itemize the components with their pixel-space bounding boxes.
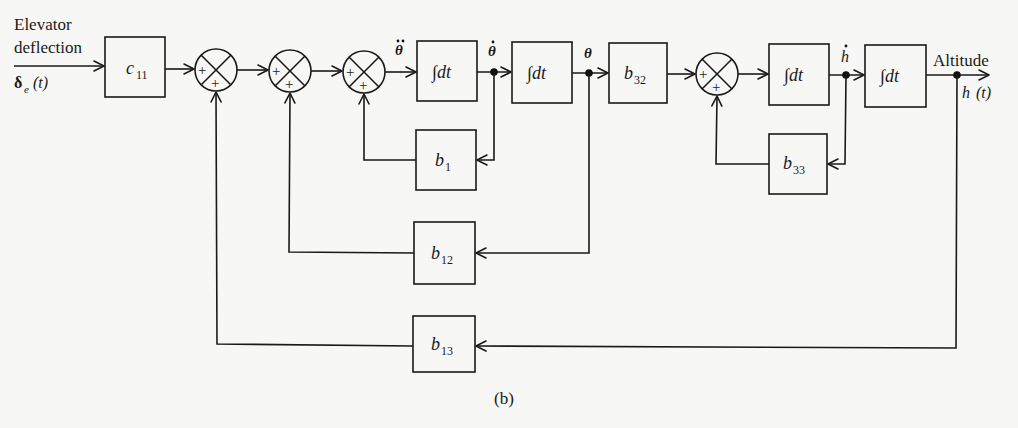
block-b32: b 32 [609,43,667,103]
svg-text:(t): (t) [976,84,991,102]
svg-text:12: 12 [441,253,453,267]
figure-caption: (b) [494,389,514,408]
input-label-line1: Elevator [14,15,72,34]
svg-text:13: 13 [441,344,453,358]
svg-text:1: 1 [445,160,451,174]
block-b13: b 13 [413,316,475,372]
svg-text:+: + [285,76,293,92]
block-integrator-2: ∫dt [512,42,572,103]
output-signal-label: h (t) [962,84,991,102]
block-b12: b 12 [414,222,475,284]
svg-text:δ: δ [14,74,22,91]
svg-text:b: b [783,153,792,173]
feedback-line-b33-to-sum4 [716,96,769,164]
svg-text:θ: θ [488,43,496,59]
svg-text:b: b [431,334,440,354]
feedback-line-h-dot-to-b33 [828,75,846,164]
svg-text:b: b [431,243,440,263]
svg-text:32: 32 [634,73,646,87]
input-label-line2: deflection [14,38,82,57]
svg-text:11: 11 [136,68,148,82]
summing-junction-3: + + [343,51,385,93]
svg-text:+: + [211,75,219,91]
input-signal-label: δ e (t) [14,74,48,95]
feedback-line-b1-to-sum3 [364,94,416,160]
block-diagram: Elevator deflection δ e (t) c 11 + + + +… [0,0,1018,428]
block-integrator-1: ∫dt [417,41,477,101]
svg-text:θ: θ [395,42,403,58]
signal-theta: θ [584,45,592,61]
feedback-line-theta-dot-to-b1 [477,72,494,160]
block-b33: b 33 [769,134,827,194]
summing-junction-4: + + [696,53,738,95]
summing-junction-1: + + [195,49,237,91]
svg-text:+: + [346,64,354,80]
signal-theta-dot: θ [488,41,496,59]
svg-text:b: b [435,150,444,170]
signal-theta-ddot: θ [395,40,404,58]
svg-text:h: h [841,48,849,65]
svg-text:c: c [126,58,134,78]
svg-text:∫dt: ∫dt [526,63,547,84]
output-label: Altitude [933,51,989,70]
block-c11: c 11 [105,37,165,97]
svg-text:h: h [962,84,970,101]
svg-text:+: + [699,66,707,82]
feedback-line-b12-to-sum2 [289,93,414,253]
block-b1: b 1 [416,130,476,190]
svg-text:∫dt: ∫dt [879,66,900,87]
svg-text:(t): (t) [33,74,48,92]
summing-junction-2: + + [269,50,311,92]
block-integrator-4: ∫dt [865,45,926,107]
svg-text:+: + [359,77,367,93]
svg-text:+: + [712,79,720,95]
signal-h-dot: h [841,45,849,65]
svg-text:∫dt: ∫dt [431,62,452,83]
svg-text:∫dt: ∫dt [783,65,804,86]
svg-text:33: 33 [793,163,805,177]
feedback-line-b13-to-sum1 [216,92,413,346]
svg-text:+: + [198,62,206,78]
svg-text:+: + [272,63,280,79]
block-integrator-3: ∫dt [769,44,829,105]
svg-text:e: e [24,83,29,95]
svg-text:b: b [624,63,633,83]
